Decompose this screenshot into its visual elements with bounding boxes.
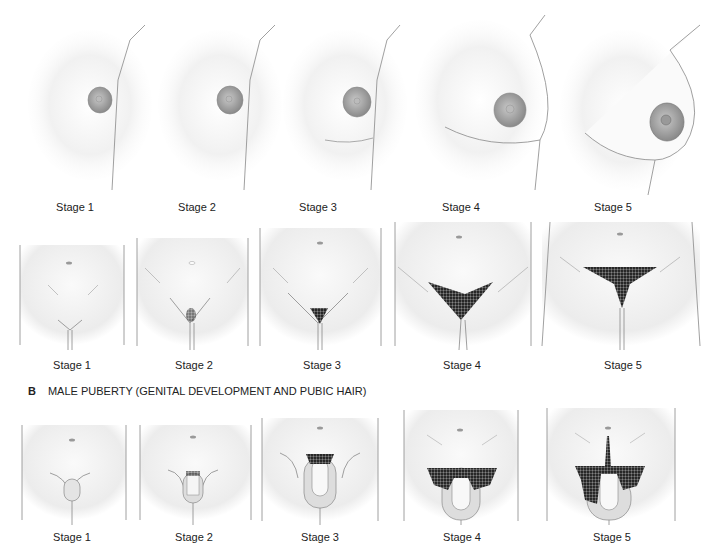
male-stage-label: Stage 4 xyxy=(443,531,481,543)
female-pubic-stage-label: Stage 5 xyxy=(604,359,642,371)
section-title: MALE PUBERTY (GENITAL DEVELOPMENT AND PU… xyxy=(48,385,366,397)
breast-stage-3-illustration xyxy=(275,20,415,190)
breast-stage-label: Stage 1 xyxy=(56,201,94,213)
breast-stage-label: Stage 5 xyxy=(594,201,632,213)
male-stage-label: Stage 2 xyxy=(175,531,213,543)
breast-stage-label: Stage 3 xyxy=(299,201,337,213)
female-pubic-stage-label: Stage 4 xyxy=(443,359,481,371)
breast-stage-4-illustration xyxy=(410,15,560,190)
section-letter: B xyxy=(28,385,36,397)
breast-stage-label: Stage 2 xyxy=(178,201,216,213)
breast-stage-1-illustration xyxy=(20,20,160,190)
male-stage-4-illustration xyxy=(402,410,520,525)
male-stage-3-illustration xyxy=(260,418,380,525)
female-pubic-stage-1-illustration xyxy=(18,245,128,350)
female-pubic-stage-4-illustration xyxy=(393,222,533,350)
breast-stage-5-illustration xyxy=(560,25,705,195)
female-pubic-stage-5-illustration xyxy=(540,222,702,350)
male-stage-2-illustration xyxy=(138,425,253,525)
female-pubic-stage-label: Stage 2 xyxy=(175,359,213,371)
breast-stage-2-illustration xyxy=(150,20,290,190)
female-pubic-stage-2-illustration xyxy=(135,238,250,350)
male-stage-1-illustration xyxy=(20,425,130,525)
breast-stage-label: Stage 4 xyxy=(442,201,480,213)
female-pubic-stage-label: Stage 1 xyxy=(53,359,91,371)
female-pubic-stage-label: Stage 3 xyxy=(303,359,341,371)
section-b-heading: BMALE PUBERTY (GENITAL DEVELOPMENT AND P… xyxy=(28,385,366,397)
male-stage-label: Stage 5 xyxy=(593,531,631,543)
male-stage-label: Stage 1 xyxy=(53,531,91,543)
male-stage-5-illustration xyxy=(545,408,677,525)
male-stage-label: Stage 3 xyxy=(301,531,339,543)
female-pubic-stage-3-illustration xyxy=(258,228,383,350)
